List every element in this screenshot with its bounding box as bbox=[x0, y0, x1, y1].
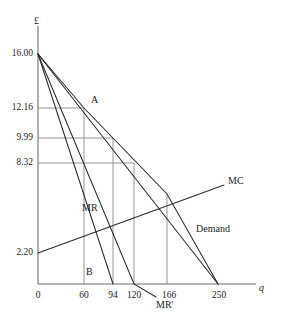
demand-curve bbox=[38, 54, 218, 284]
x-tick-label-0: 0 bbox=[30, 291, 46, 301]
point-label-a: A bbox=[91, 95, 98, 105]
y-tick-label-16: 16.00 bbox=[0, 49, 33, 59]
mr-curve-label: MR bbox=[82, 203, 98, 213]
x-tick-label-94: 94 bbox=[103, 291, 123, 301]
chart-figure: £ q 16.00 12.16 9.99 8.32 2.20 0 60 94 1… bbox=[0, 0, 289, 328]
x-axis-title: q bbox=[259, 283, 264, 293]
y-axis-title: £ bbox=[34, 16, 39, 26]
mc-curve bbox=[38, 185, 224, 253]
point-label-b: B bbox=[86, 267, 93, 277]
chart-plot-area bbox=[0, 0, 289, 328]
x-tick-label-60: 60 bbox=[74, 291, 94, 301]
y-tick-label-2-20: 2.20 bbox=[0, 248, 33, 258]
y-tick-label-12-16: 12.16 bbox=[0, 103, 33, 113]
mr-prime-curve-label: MR' bbox=[156, 300, 173, 310]
mr-curve bbox=[38, 54, 113, 284]
mc-curve-label: MC bbox=[228, 176, 244, 186]
mr-prime-curve bbox=[38, 54, 156, 297]
y-tick-label-8-32: 8.32 bbox=[0, 158, 33, 168]
x-tick-label-250: 250 bbox=[207, 291, 231, 301]
y-tick-label-9-99: 9.99 bbox=[0, 133, 33, 143]
x-tick-label-120: 120 bbox=[122, 291, 146, 301]
demand-curve-label: Demand bbox=[196, 224, 230, 234]
